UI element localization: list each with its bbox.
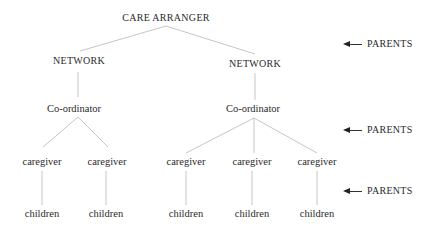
left-arrow-icon — [348, 191, 362, 192]
parents-annotation-2: PARENTS — [367, 124, 413, 136]
caregiver-node: caregiver — [232, 156, 271, 168]
children-node: children — [169, 208, 203, 220]
care-arranger-node: CARE ARRANGER — [122, 12, 210, 24]
coordinator-node-1: Co-ordinator — [47, 103, 101, 115]
caregiver-node: caregiver — [166, 156, 205, 168]
left-arrow-icon — [348, 130, 362, 131]
children-node: children — [300, 208, 334, 220]
children-node: children — [89, 208, 123, 220]
caregiver-node: caregiver — [297, 156, 336, 168]
connector-lines — [0, 0, 430, 231]
parents-annotation-3: PARENTS — [367, 185, 413, 197]
network-node-2: NETWORK — [229, 58, 281, 70]
caregiver-node: caregiver — [22, 156, 61, 168]
caregiver-node: caregiver — [87, 156, 126, 168]
children-node: children — [235, 208, 269, 220]
coordinator-node-2: Co-ordinator — [226, 103, 280, 115]
children-node: children — [25, 208, 59, 220]
network-node-1: NETWORK — [53, 55, 105, 67]
parents-annotation-1: PARENTS — [367, 38, 413, 50]
left-arrow-icon — [348, 44, 362, 45]
